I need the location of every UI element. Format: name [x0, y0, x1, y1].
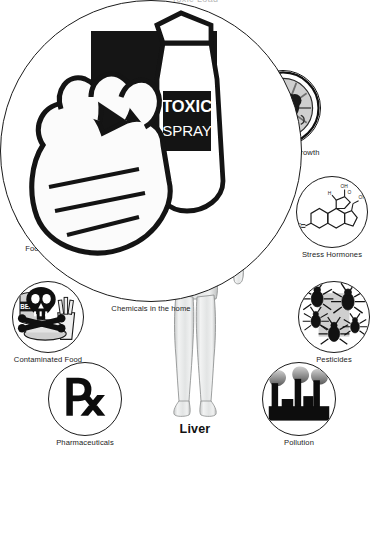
infographic-canvas: Toxic Load	[0, 0, 390, 558]
svg-text:O: O	[347, 190, 351, 195]
node-pollution[interactable]: Pollution	[262, 362, 336, 447]
gloved-hand-spray-bottle-icon: TOXIC SPRAY	[1, 1, 301, 301]
svg-text:OH: OH	[340, 184, 348, 189]
pharmaceuticals-disc: ℞	[48, 362, 122, 436]
factory-smokestacks-icon	[263, 363, 335, 435]
pollution-label: Pollution	[262, 439, 336, 447]
svg-text:SPRAY: SPRAY	[162, 122, 212, 139]
svg-text:TOXIC: TOXIC	[162, 97, 212, 115]
pesticides-disc	[298, 281, 370, 353]
pollution-disc	[262, 362, 336, 436]
pharmaceuticals-label: Pharmaceuticals	[48, 439, 122, 447]
node-pesticides[interactable]: Pesticides	[298, 281, 370, 364]
steroid-molecule-icon: O OH OH H O	[297, 177, 367, 247]
node-pharmaceuticals[interactable]: ℞ Pharmaceuticals	[48, 362, 122, 447]
rx-symbol-icon: ℞	[49, 363, 121, 435]
insects-icon	[299, 282, 369, 352]
node-chemicals-in-the-home[interactable]: TOXIC SPRAY Chemicals in the home	[0, 0, 302, 313]
stress-hormones-disc: O OH OH H O	[296, 176, 368, 248]
svg-text:OH: OH	[359, 195, 367, 200]
svg-text:H: H	[328, 191, 332, 196]
node-stress-hormones[interactable]: O OH OH H O Stress Hormones	[296, 176, 368, 259]
stress-hormones-label: Stress Hormones	[296, 251, 368, 259]
chemicals-in-the-home-disc: TOXIC SPRAY	[0, 0, 302, 302]
svg-text:℞: ℞	[63, 370, 108, 426]
chemicals-in-the-home-label: Chemicals in the home	[0, 305, 302, 313]
